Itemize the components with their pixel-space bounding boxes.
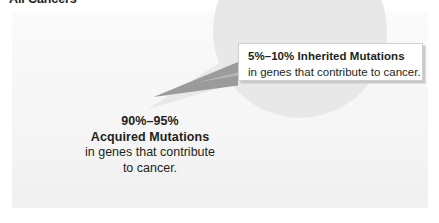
pie-chart	[0, 0, 439, 223]
chart-figure: All Cancers 90%–95% Acquired Mutations i…	[0, 0, 439, 223]
pie-label-detail-line-2: to cancer.	[62, 161, 238, 177]
pie-slice-label-acquired: 90%–95% Acquired Mutations in genes that…	[62, 114, 238, 176]
callout-detail: in genes that contribute to cancer.	[248, 65, 422, 81]
pie-label-percent: 90%–95%	[62, 114, 238, 130]
pie-label-detail-line-1: in genes that contribute	[62, 145, 238, 161]
callout-text: 5%–10% Inherited Mutations in genes that…	[239, 44, 422, 80]
callout-box-inherited[interactable]: 5%–10% Inherited Mutations in genes that…	[238, 43, 423, 81]
callout-title: 5%–10% Inherited Mutations	[248, 49, 422, 65]
pie-label-title: Acquired Mutations	[62, 130, 238, 146]
